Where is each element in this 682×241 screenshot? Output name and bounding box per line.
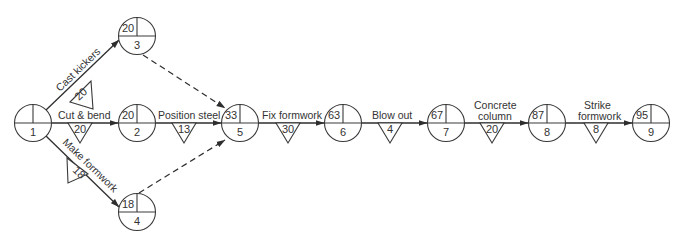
node-7-earliest: 67 <box>431 109 443 121</box>
label-cast-kickers: Cast kickers <box>53 45 102 93</box>
node-8-earliest: 87 <box>532 109 544 121</box>
duration-fix-formwork: 30 <box>276 123 300 143</box>
node-5-event: 5 <box>237 126 243 138</box>
node-3: 20 3 <box>119 18 156 55</box>
svg-text:30: 30 <box>282 123 294 135</box>
svg-text:20: 20 <box>486 123 498 135</box>
node-6: 63 6 <box>325 105 362 142</box>
svg-text:4: 4 <box>387 123 393 135</box>
node-4-earliest: 18 <box>122 198 134 210</box>
node-9-earliest: 95 <box>636 109 648 121</box>
node-8-event: 8 <box>544 126 550 138</box>
node-4: 18 4 <box>119 194 156 231</box>
node-3-event: 3 <box>134 39 140 51</box>
node-8: 87 8 <box>529 105 566 142</box>
duration-strike-formwork: 8 <box>584 123 608 143</box>
node-2-earliest: 20 <box>122 109 134 121</box>
node-1-event: 1 <box>30 126 36 138</box>
duration-concrete-column: 20 <box>480 123 504 143</box>
node-1: 1 <box>15 105 52 142</box>
label-strike-formwork-2: formwork <box>578 110 622 122</box>
node-5-earliest: 33 <box>225 109 237 121</box>
label-fix-formwork: Fix formwork <box>262 109 323 121</box>
network-diagram: Cast kickers Cut & bend Make formwork Po… <box>0 0 682 241</box>
node-2-event: 2 <box>134 126 140 138</box>
duration-blow-out: 4 <box>378 123 402 143</box>
label-blow-out: Blow out <box>372 109 412 121</box>
node-4-event: 4 <box>134 215 140 227</box>
dummy-arrow-4-to-5 <box>139 140 225 193</box>
node-5: 33 5 <box>222 105 259 142</box>
node-7-event: 7 <box>443 126 449 138</box>
svg-text:8: 8 <box>593 123 599 135</box>
label-cut-and-bend: Cut & bend <box>58 109 111 121</box>
label-position-steel: Position steel <box>158 109 220 121</box>
node-6-earliest: 63 <box>328 109 340 121</box>
label-concrete-column-2: column <box>478 110 512 122</box>
node-7: 67 7 <box>428 105 465 142</box>
node-6-event: 6 <box>340 126 346 138</box>
duration-cast-kickers: 20 <box>70 81 93 109</box>
svg-text:20: 20 <box>74 123 86 135</box>
svg-text:13: 13 <box>178 123 190 135</box>
duration-position-steel: 13 <box>172 123 196 143</box>
node-9-event: 9 <box>648 126 654 138</box>
node-2: 20 2 <box>119 105 156 142</box>
dummy-arrow-3-to-5 <box>143 55 225 108</box>
node-9: 95 9 <box>633 105 670 142</box>
node-3-earliest: 20 <box>122 22 134 34</box>
